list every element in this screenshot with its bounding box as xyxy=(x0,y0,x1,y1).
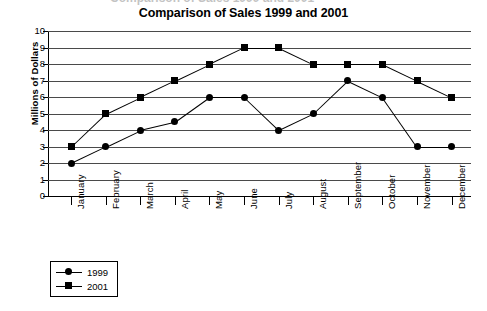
series-2001 xyxy=(48,31,471,196)
chart-root: Comparison of Sales 1999 and 2001 Compar… xyxy=(0,0,487,311)
x-tick-mark xyxy=(313,196,314,205)
legend-marker-icon xyxy=(56,267,82,277)
y-tick-label: 2 xyxy=(25,156,45,169)
line-segment xyxy=(348,64,383,65)
legend-item-1999[interactable]: 1999 xyxy=(56,265,108,279)
y-tick-label: 1 xyxy=(25,173,45,186)
x-tick-mark xyxy=(140,196,141,205)
y-tick-label: 4 xyxy=(25,123,45,136)
page-title: Comparison of Sales 1999 and 2001 xyxy=(0,6,487,20)
x-tick-mark xyxy=(106,196,107,205)
line-segment xyxy=(175,64,210,81)
legend-item-2001[interactable]: 2001 xyxy=(56,279,108,293)
line-segment xyxy=(382,64,417,81)
y-tick-label: 3 xyxy=(25,140,45,153)
line-segment xyxy=(140,81,175,98)
y-tick-label: 9 xyxy=(25,41,45,54)
line-segment xyxy=(313,64,348,65)
x-tick-mark xyxy=(209,196,210,205)
x-tick-mark xyxy=(175,196,176,205)
x-tick-mark xyxy=(382,196,383,205)
legend-label: 1999 xyxy=(87,267,108,278)
y-tick-label: 5 xyxy=(25,107,45,120)
line-segment xyxy=(71,114,106,148)
line-segment xyxy=(417,81,452,98)
line-segment xyxy=(244,48,279,49)
x-tick-mark xyxy=(244,196,245,205)
y-tick-label: 7 xyxy=(25,74,45,87)
x-tick-mark xyxy=(71,196,72,205)
x-tick-mark xyxy=(348,196,349,205)
x-tick-mark xyxy=(417,196,418,205)
y-tick-label: 10 xyxy=(25,24,45,37)
line-segment xyxy=(105,97,140,114)
y-tick-label: 8 xyxy=(25,57,45,70)
plot-area: 012345678910 JanuaryFebruaryMarchAprilMa… xyxy=(48,31,471,196)
line-segment xyxy=(278,48,313,65)
legend: 19992001 xyxy=(50,261,118,297)
legend-label: 2001 xyxy=(87,281,108,292)
y-tick-label: 0 xyxy=(25,189,45,202)
y-tick-label: 6 xyxy=(25,90,45,103)
x-tick-mark xyxy=(452,196,453,205)
line-segment xyxy=(209,48,244,65)
cut-off-header-text: Comparison of Sales 1999 and 2001 xyxy=(110,0,375,5)
legend-marker-icon xyxy=(56,281,82,291)
x-tick-mark xyxy=(279,196,280,205)
